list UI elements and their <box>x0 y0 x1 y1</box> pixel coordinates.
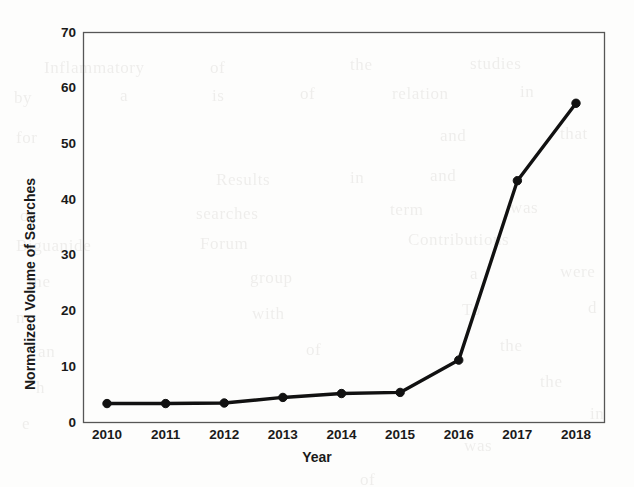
data-point-marker <box>220 399 228 407</box>
data-point-marker <box>103 399 111 407</box>
data-point-marker <box>337 389 345 397</box>
y-tick-label: 60 <box>36 80 76 95</box>
y-tick-label: 20 <box>36 303 76 318</box>
x-tick-label: 2018 <box>548 427 604 442</box>
y-axis-title: Normalized Volume of Searches <box>22 178 38 390</box>
data-point-marker <box>396 388 404 396</box>
plot-frame-box <box>84 33 605 423</box>
data-series-line <box>107 103 576 403</box>
x-tick-label: 2012 <box>196 427 252 442</box>
data-point-marker <box>279 393 287 401</box>
x-tick-label: 2016 <box>431 427 487 442</box>
y-tick-label: 40 <box>36 192 76 207</box>
y-tick-label: 0 <box>36 415 76 430</box>
x-tick-label: 2011 <box>138 427 194 442</box>
data-series-markers <box>103 99 580 408</box>
x-tick-label: 2015 <box>372 427 428 442</box>
data-point-marker <box>455 356 463 364</box>
data-point-marker <box>513 177 521 185</box>
chart-figure: Inflammatoryofthestudiesbyaisofrelationi… <box>0 0 634 487</box>
data-point-marker <box>572 99 580 107</box>
y-tick-label: 30 <box>36 247 76 262</box>
y-tick-label: 10 <box>36 359 76 374</box>
y-tick-label: 50 <box>36 136 76 151</box>
x-tick-label: 2014 <box>314 427 370 442</box>
line-chart-plot <box>0 0 634 487</box>
x-axis-title: Year <box>0 449 634 465</box>
data-point-marker <box>161 399 169 407</box>
y-tick-label: 70 <box>36 25 76 40</box>
x-tick-label: 2010 <box>79 427 135 442</box>
x-tick-label: 2013 <box>255 427 311 442</box>
x-tick-label: 2017 <box>489 427 545 442</box>
